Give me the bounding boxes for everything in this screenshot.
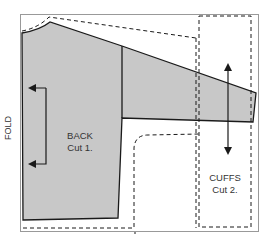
back-cut: Cut 1. <box>60 142 100 154</box>
cuffs-arrow-up <box>224 63 232 71</box>
cuffs-name: CUFFS <box>205 172 245 184</box>
cuffs-cut: Cut 2. <box>205 184 245 196</box>
fold-label: FOLD <box>3 116 13 140</box>
back-label: BACK Cut 1. <box>60 130 100 154</box>
sewing-pattern-layout: FOLD BACK Cut 1. CUFFS Cut 2. <box>0 0 265 237</box>
back-name: BACK <box>60 130 100 142</box>
cuffs-arrow-down <box>224 147 232 155</box>
cuffs-label: CUFFS Cut 2. <box>205 172 245 196</box>
pattern-diagram <box>0 0 265 237</box>
